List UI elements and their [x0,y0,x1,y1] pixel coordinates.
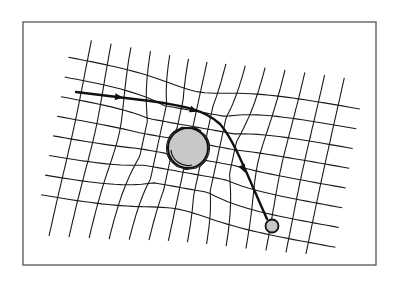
spacetime-diagram [0,0,399,281]
grid-line [129,55,170,240]
small-body [266,220,279,233]
grid-line [45,175,339,227]
large-mass-body [168,128,208,168]
grid-line [69,44,111,237]
grid-line [65,77,357,129]
diagram-canvas [0,0,399,281]
arrowhead-icon [239,164,246,173]
grid-line [49,40,91,235]
grid-line [109,51,150,239]
grid-line [286,75,325,252]
grid-line [68,57,359,109]
